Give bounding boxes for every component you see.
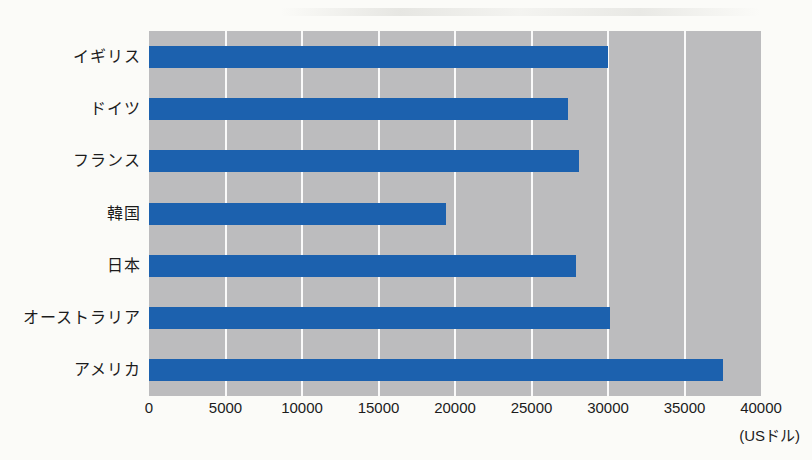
category-label-1: ドイツ [90, 98, 141, 120]
x-tick-label-5000: 5000 [209, 399, 242, 416]
bar-4 [149, 255, 576, 277]
bar-6 [149, 359, 723, 381]
scan-artifact [280, 8, 760, 16]
category-label-6: アメリカ [74, 359, 141, 381]
bar-3 [149, 203, 446, 225]
category-label-0: イギリス [73, 46, 141, 68]
gridline-35000 [684, 31, 686, 396]
category-label-3: 韓国 [107, 203, 141, 225]
gridline-30000 [607, 31, 609, 396]
x-tick-label-40000: 40000 [740, 399, 782, 416]
x-tick-label-10000: 10000 [281, 399, 323, 416]
bar-5 [149, 307, 610, 329]
bar-0 [149, 46, 608, 68]
gridline-20000 [454, 31, 456, 396]
bar-2 [149, 150, 579, 172]
x-tick-label-25000: 25000 [511, 399, 553, 416]
category-label-2: フランス [73, 150, 141, 172]
bar-chart-figure: イギリスドイツフランス韓国日本オーストラリアアメリカ 0500010000150… [0, 0, 812, 460]
category-label-5: オーストラリア [23, 307, 141, 329]
x-tick-label-0: 0 [145, 399, 153, 416]
x-tick-label-15000: 15000 [358, 399, 400, 416]
gridline-25000 [531, 31, 533, 396]
x-tick-label-20000: 20000 [434, 399, 476, 416]
bar-1 [149, 98, 568, 120]
x-tick-label-35000: 35000 [664, 399, 706, 416]
x-axis-unit-label: (USドル) [700, 424, 800, 445]
x-tick-label-30000: 30000 [587, 399, 629, 416]
category-label-4: 日本 [107, 255, 141, 277]
plot-area [149, 31, 761, 396]
